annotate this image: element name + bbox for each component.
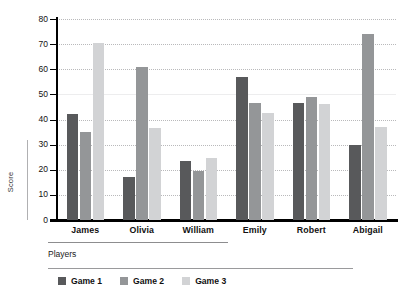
bar <box>362 34 374 220</box>
legend-divider <box>48 268 353 269</box>
x-category-label: Olivia <box>114 225 171 235</box>
x-category-label: Abigail <box>340 225 397 235</box>
bar <box>319 104 331 220</box>
gridline <box>57 170 396 171</box>
bar <box>236 77 248 220</box>
legend-label: Game 2 <box>133 277 164 286</box>
y-tick-mark <box>50 69 56 70</box>
y-tick-label: 0 <box>26 216 48 225</box>
x-category-label: Emily <box>227 225 284 235</box>
bar <box>349 145 361 220</box>
bar-chart: 80706050403020100 Score JamesOliviaWilli… <box>0 0 405 300</box>
legend-label: Game 3 <box>195 277 226 286</box>
bar <box>67 114 79 220</box>
legend: Game 1Game 2Game 3 <box>58 275 244 287</box>
y-tick-label: 40 <box>26 115 48 124</box>
bar <box>80 132 92 220</box>
y-tick-label: 70 <box>26 40 48 49</box>
bar <box>193 171 205 220</box>
legend-swatch-icon <box>182 277 190 285</box>
legend-item[interactable]: Game 3 <box>182 277 226 286</box>
x-axis-title: Players <box>48 249 76 259</box>
plot-area <box>57 19 396 220</box>
bar <box>375 127 387 220</box>
bar <box>149 128 161 220</box>
gridline <box>57 120 396 121</box>
x-category-label: William <box>170 225 227 235</box>
y-tick-label: 20 <box>26 165 48 174</box>
bar <box>293 103 305 220</box>
legend-swatch-icon <box>120 277 128 285</box>
bar <box>93 43 105 220</box>
y-tick-mark <box>50 195 56 196</box>
y-axis-title: Score <box>7 162 15 202</box>
y-tick-label: 80 <box>26 15 48 24</box>
gridline <box>57 94 396 95</box>
y-tick-label: 50 <box>26 90 48 99</box>
y-tick-mark <box>50 170 56 171</box>
gridline <box>57 19 396 20</box>
bar <box>262 113 274 220</box>
legend-swatch-icon <box>58 277 66 285</box>
bar <box>136 67 148 220</box>
y-tick-mark <box>50 145 56 146</box>
x-category-label: James <box>57 225 114 235</box>
legend-label: Game 1 <box>71 277 102 286</box>
y-tick-label: 60 <box>26 65 48 74</box>
gridline <box>57 69 396 70</box>
y-tick-mark <box>50 120 56 121</box>
gridline <box>57 44 396 45</box>
gridline <box>57 195 396 196</box>
bar <box>206 158 218 220</box>
y-tick-label: 30 <box>26 140 48 149</box>
bar <box>123 177 135 220</box>
y-tick-mark <box>50 19 56 20</box>
x-category-label: Robert <box>283 225 340 235</box>
legend-item[interactable]: Game 2 <box>120 277 164 286</box>
legend-item[interactable]: Game 1 <box>58 277 102 286</box>
x-axis-title-rule <box>48 242 228 243</box>
y-tick-mark <box>50 94 56 95</box>
bar <box>249 103 261 220</box>
bar <box>306 97 318 220</box>
bar <box>180 161 192 220</box>
y-tick-mark <box>50 220 56 221</box>
y-axis-title-rule <box>27 140 28 220</box>
y-tick-mark <box>50 44 56 45</box>
gridline <box>57 145 396 146</box>
y-tick-label: 10 <box>26 190 48 199</box>
y-axis-line <box>56 17 58 222</box>
